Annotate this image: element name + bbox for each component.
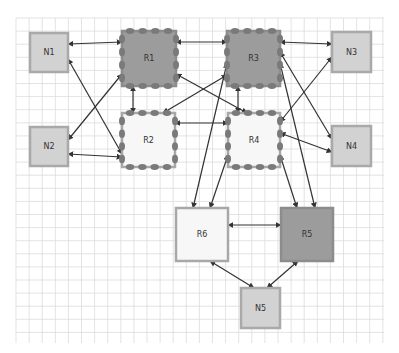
node-label: R3 <box>248 54 259 63</box>
port-icon[interactable] <box>255 83 263 89</box>
port-icon[interactable] <box>138 83 146 89</box>
node-n1[interactable]: N1 <box>30 33 68 72</box>
port-icon[interactable] <box>225 142 231 150</box>
node-label: N1 <box>43 48 54 57</box>
node-label: R5 <box>302 230 313 239</box>
node-label: N2 <box>43 142 54 151</box>
port-icon[interactable] <box>225 117 231 125</box>
node-r4[interactable]: R4 <box>225 110 283 170</box>
node-label: R2 <box>143 136 154 145</box>
node-r2[interactable]: R2 <box>119 110 178 170</box>
edge-n3-r4[interactable] <box>280 57 332 122</box>
node-r5[interactable]: R5 <box>281 208 333 261</box>
port-icon[interactable] <box>231 28 239 34</box>
node-n2[interactable]: N2 <box>30 127 68 166</box>
port-icon[interactable] <box>119 48 125 56</box>
port-icon[interactable] <box>119 129 125 137</box>
port-icon[interactable] <box>231 83 239 89</box>
port-icon[interactable] <box>119 155 125 163</box>
port-icon[interactable] <box>256 110 264 116</box>
port-icon[interactable] <box>268 83 276 89</box>
port-icon[interactable] <box>232 164 240 170</box>
port-icon[interactable] <box>232 110 240 116</box>
edge-r6-n5[interactable] <box>210 261 254 288</box>
port-icon[interactable] <box>172 129 178 137</box>
port-icon[interactable] <box>126 164 134 170</box>
node-label: N3 <box>346 48 357 57</box>
port-icon[interactable] <box>244 110 252 116</box>
port-icon[interactable] <box>119 35 125 43</box>
port-icon[interactable] <box>138 164 146 170</box>
port-icon[interactable] <box>172 155 178 163</box>
node-label: R1 <box>144 54 155 63</box>
port-icon[interactable] <box>277 117 283 125</box>
port-icon[interactable] <box>277 129 283 137</box>
port-icon[interactable] <box>163 110 171 116</box>
port-icon[interactable] <box>277 61 283 69</box>
port-icon[interactable] <box>151 28 159 34</box>
port-icon[interactable] <box>224 74 230 82</box>
port-icon[interactable] <box>277 35 283 43</box>
port-icon[interactable] <box>255 28 263 34</box>
port-icon[interactable] <box>172 142 178 150</box>
port-icon[interactable] <box>119 117 125 125</box>
node-r3[interactable]: R3 <box>224 28 283 89</box>
port-icon[interactable] <box>164 28 172 34</box>
port-icon[interactable] <box>126 83 134 89</box>
port-icon[interactable] <box>172 117 178 125</box>
port-icon[interactable] <box>173 61 179 69</box>
port-icon[interactable] <box>150 110 158 116</box>
port-icon[interactable] <box>268 164 276 170</box>
node-n4[interactable]: N4 <box>332 126 371 166</box>
network-diagram-canvas: N1N2N3N4N5R1R2R3R4R5R6 <box>0 0 399 353</box>
node-label: R6 <box>197 230 208 239</box>
port-icon[interactable] <box>277 48 283 56</box>
port-icon[interactable] <box>243 83 251 89</box>
port-icon[interactable] <box>224 35 230 43</box>
edge-r3-n3[interactable] <box>280 42 332 44</box>
port-icon[interactable] <box>164 83 172 89</box>
port-icon[interactable] <box>225 155 231 163</box>
port-icon[interactable] <box>225 129 231 137</box>
port-icon[interactable] <box>173 74 179 82</box>
port-icon[interactable] <box>119 74 125 82</box>
node-n5[interactable]: N5 <box>241 288 280 328</box>
edge-r5-n5[interactable] <box>267 261 298 288</box>
port-icon[interactable] <box>173 48 179 56</box>
port-icon[interactable] <box>277 155 283 163</box>
node-n3[interactable]: N3 <box>332 32 371 72</box>
port-icon[interactable] <box>138 110 146 116</box>
edge-r4-r5[interactable] <box>280 155 297 208</box>
port-icon[interactable] <box>151 83 159 89</box>
port-icon[interactable] <box>224 48 230 56</box>
port-icon[interactable] <box>126 110 134 116</box>
port-icon[interactable] <box>126 28 134 34</box>
port-icon[interactable] <box>277 74 283 82</box>
port-icon[interactable] <box>277 142 283 150</box>
node-r1[interactable]: R1 <box>119 28 179 89</box>
node-r6[interactable]: R6 <box>176 208 228 261</box>
port-icon[interactable] <box>268 28 276 34</box>
port-icon[interactable] <box>244 164 252 170</box>
port-icon[interactable] <box>138 28 146 34</box>
port-icon[interactable] <box>163 164 171 170</box>
port-icon[interactable] <box>268 110 276 116</box>
port-icon[interactable] <box>243 28 251 34</box>
port-icon[interactable] <box>256 164 264 170</box>
node-label: N4 <box>346 142 357 151</box>
port-icon[interactable] <box>150 164 158 170</box>
port-icon[interactable] <box>119 61 125 69</box>
port-icon[interactable] <box>119 142 125 150</box>
port-icon[interactable] <box>173 35 179 43</box>
node-label: N5 <box>255 304 266 313</box>
node-label: R4 <box>249 136 260 145</box>
port-icon[interactable] <box>224 61 230 69</box>
